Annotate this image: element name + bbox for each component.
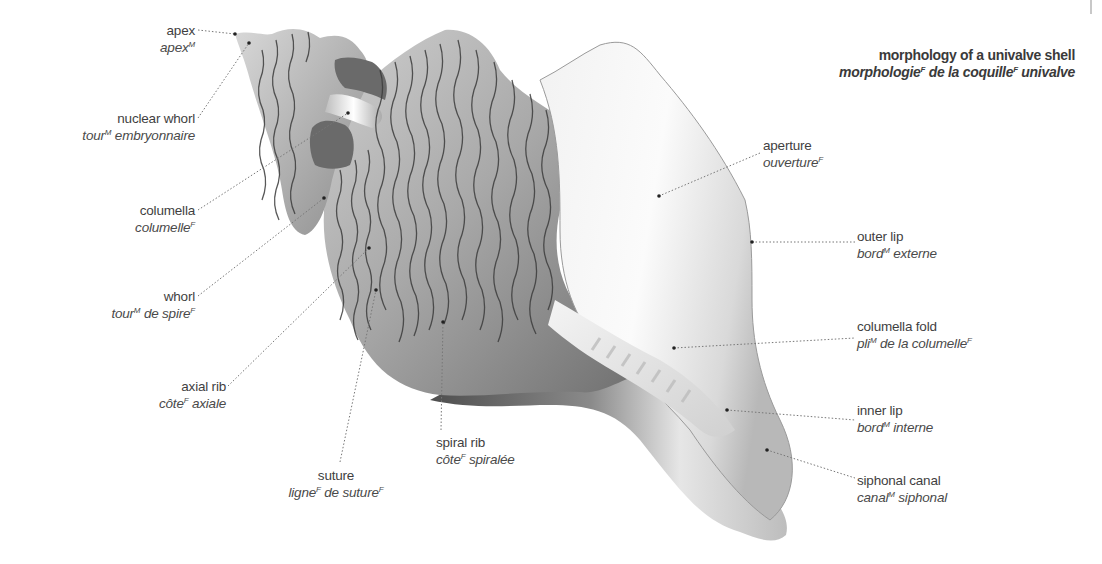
diagram-title: morphology of a univalve shell morpholog… [839,47,1075,81]
label-axial-rib: axial rib côteF axiale [159,378,226,412]
label-aperture: aperture ouvertureF [763,137,823,171]
label-apex: apex apexM [160,22,195,56]
label-suture: suture ligneF de sutureF [280,467,392,501]
title-french: morphologieF de la coquilleF univalve [839,64,1075,81]
page-edge-mark [1090,0,1092,14]
leader-apex [198,30,235,34]
label-spiral-rib: spiral rib côteF spiralée [436,434,515,468]
label-inner-lip: inner lip bordM interne [857,402,933,436]
label-siphonal-canal: siphonal canal canalM siphonal [857,472,947,506]
shell-diagram: morphology of a univalve shell morpholog… [0,0,1102,564]
label-outer-lip: outer lip bordM externe [857,228,937,262]
label-columella: columella columelleF [135,202,195,236]
label-nuclear-whorl: nuclear whorl tourM embryonnaire [82,110,195,144]
label-whorl: whorl tourM de spireF [111,288,195,322]
title-english: morphology of a univalve shell [839,47,1075,64]
leader-nuclear-whorl [198,43,249,118]
label-columella-fold: columella fold pliM de la columelleF [857,318,972,352]
